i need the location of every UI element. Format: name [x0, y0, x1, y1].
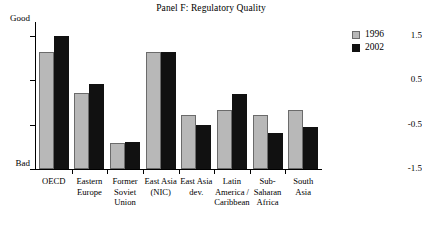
y-tick-mark-1 — [30, 36, 35, 37]
bar-group — [74, 84, 104, 169]
legend-label-1996: 1996 — [365, 28, 384, 41]
bar-2002-3 — [161, 52, 176, 169]
x-tick-mark — [285, 169, 286, 174]
x-axis-label: SouthAsia — [281, 176, 325, 197]
x-tick-mark — [107, 169, 108, 174]
bar-group — [110, 142, 140, 169]
x-axis-label-line: Union — [103, 197, 147, 208]
bar-1996-3 — [146, 52, 161, 169]
legend-swatch-1996 — [352, 31, 360, 39]
bar-2002-2 — [125, 142, 140, 169]
bar-1996-6 — [253, 115, 268, 169]
y-axis-bad-caption: Bad — [0, 159, 30, 168]
y-tick-label-3: -0.5 — [394, 120, 422, 129]
bar-1996-1 — [74, 93, 89, 169]
bar-group — [39, 36, 69, 169]
plot-area — [36, 36, 321, 169]
x-axis-labels: OECDEasternEuropeFormerSovietUnionEast A… — [36, 176, 321, 238]
bar-2002-4 — [196, 125, 211, 169]
bar-2002-6 — [268, 133, 283, 169]
x-tick-mark — [214, 169, 215, 174]
y-tick-mark-2 — [30, 80, 35, 81]
bar-group — [217, 94, 247, 169]
bar-group — [253, 115, 283, 169]
bar-1996-5 — [217, 110, 232, 169]
x-axis-label-line: South — [281, 176, 325, 187]
bar-1996-0 — [39, 52, 54, 169]
y-tick-label-2: 0.5 — [394, 75, 422, 84]
y-tick-label-1: 1.5 — [394, 31, 422, 40]
x-tick-mark — [143, 169, 144, 174]
bar-group — [146, 52, 176, 169]
legend-item-2002: 2002 — [352, 41, 384, 54]
y-tick-label-4: -1.5 — [394, 164, 422, 173]
bar-2002-0 — [54, 36, 69, 169]
y-tick-mark-3 — [30, 125, 35, 126]
legend: 1996 2002 — [352, 28, 384, 54]
x-tick-mark — [250, 169, 251, 174]
bar-group — [181, 115, 211, 169]
y-axis-good-caption: Good — [0, 14, 30, 23]
chart-title: Panel F: Regulatory Quality — [0, 3, 422, 13]
x-tick-mark — [72, 169, 73, 174]
legend-label-2002: 2002 — [365, 41, 384, 54]
bar-group — [288, 110, 318, 169]
x-axis-label-line: Asia — [281, 187, 325, 198]
bar-2002-1 — [89, 84, 104, 169]
x-axis-label-line: Africa — [246, 197, 290, 208]
x-tick-mark — [179, 169, 180, 174]
bar-1996-2 — [110, 143, 125, 169]
bar-1996-7 — [288, 110, 303, 169]
bar-2002-7 — [303, 127, 318, 169]
bar-1996-4 — [181, 115, 196, 169]
bar-2002-5 — [232, 94, 247, 169]
y-tick-mark-4 — [30, 169, 35, 170]
legend-item-1996: 1996 — [352, 28, 384, 41]
chart-panel: Panel F: Regulatory Quality Good Bad 1.5… — [0, 0, 422, 244]
legend-swatch-2002 — [352, 44, 360, 52]
